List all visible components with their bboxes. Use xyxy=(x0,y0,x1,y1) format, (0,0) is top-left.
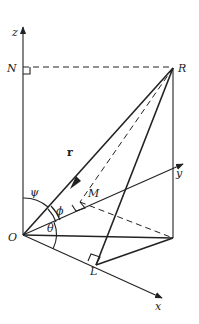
r-to-l-line xyxy=(96,68,173,265)
l-to-p-line xyxy=(96,238,173,265)
label-m: M xyxy=(87,187,100,200)
r-to-m-dashed-line xyxy=(80,68,173,202)
label-x: x xyxy=(155,300,162,313)
label-n: N xyxy=(6,62,17,75)
angle-psi-arc xyxy=(23,198,48,207)
vector-projection-diagram: z N R r ψ ϕ M y θ O L x xyxy=(0,0,199,324)
vector-r xyxy=(23,68,173,235)
right-angle-mark-n xyxy=(23,67,30,74)
label-y: y xyxy=(175,167,183,180)
label-r-vector: r xyxy=(67,146,73,159)
o-to-p-line xyxy=(23,235,173,238)
label-theta: θ xyxy=(47,222,54,235)
right-angle-mark-l xyxy=(88,254,100,265)
label-r-point: R xyxy=(177,62,186,75)
label-phi: ϕ xyxy=(56,205,64,218)
label-z: z xyxy=(11,26,18,39)
label-psi: ψ xyxy=(30,186,39,199)
vector-r-arrowhead-icon xyxy=(70,176,81,189)
label-l: L xyxy=(89,265,97,278)
m-to-p-dashed-line xyxy=(80,202,173,238)
label-o: O xyxy=(8,231,17,244)
